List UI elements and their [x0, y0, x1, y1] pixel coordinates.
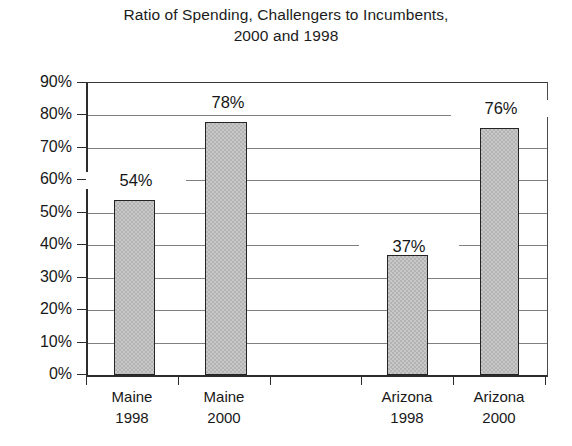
y-axis-label-0: 0% [6, 366, 72, 382]
y-axis-label-40: 40% [6, 236, 72, 252]
x-axis-tick-0 [86, 376, 87, 385]
value-label-maine-1998: 54% [86, 172, 186, 189]
value-label-arizona-2000: 76% [451, 100, 551, 117]
x-axis-tick-1 [178, 376, 179, 385]
bar-arizona-2000[interactable] [480, 128, 519, 375]
chart-title-line-2: 2000 and 1998 [0, 25, 572, 46]
y-axis-label-50: 50% [6, 204, 72, 220]
y-axis-tick-40 [77, 244, 86, 245]
gridline-40 [88, 245, 547, 246]
x-axis-tick-3 [361, 376, 362, 385]
bar-arizona-1998[interactable] [387, 255, 428, 375]
y-axis-label-10: 10% [6, 334, 72, 350]
x-axis-label-maine-1998-line-2: 1998 [86, 407, 178, 428]
x-axis-tick-5 [545, 376, 546, 385]
chart-title-line-1: Ratio of Spending, Challengers to Incumb… [0, 4, 572, 25]
x-axis-label-maine-2000-line-1: Maine [178, 386, 270, 407]
chart-title: Ratio of Spending, Challengers to Incumb… [0, 4, 572, 46]
x-axis-label-maine-2000: Maine 2000 [178, 386, 270, 428]
bar-maine-2000[interactable] [205, 122, 247, 375]
gridline-30 [88, 278, 547, 279]
y-axis-label-80: 80% [6, 106, 72, 122]
y-axis-label-90: 90% [6, 74, 72, 90]
y-axis-label-60: 60% [6, 171, 72, 187]
x-axis-label-arizona-2000-line-1: Arizona [453, 386, 545, 407]
y-axis-tick-50 [77, 212, 86, 213]
x-axis-label-maine-1998-line-1: Maine [86, 386, 178, 407]
bar-maine-1998[interactable] [114, 200, 155, 375]
x-axis-label-maine-1998: Maine 1998 [86, 386, 178, 428]
value-label-maine-2000: 78% [178, 94, 278, 111]
y-axis-tick-80 [77, 114, 86, 115]
x-axis-label-arizona-2000-line-2: 2000 [453, 407, 545, 428]
y-axis-label-20: 20% [6, 301, 72, 317]
y-axis-tick-60 [77, 179, 86, 180]
y-axis-tick-30 [77, 277, 86, 278]
gridline-50 [88, 213, 547, 214]
y-axis-label-70: 70% [6, 139, 72, 155]
y-axis-tick-0 [77, 374, 86, 375]
y-axis-tick-10 [77, 342, 86, 343]
value-label-arizona-1998: 37% [359, 238, 459, 255]
x-axis-label-arizona-1998-line-2: 1998 [361, 407, 453, 428]
plot-area [86, 82, 548, 377]
x-axis-tick-2 [270, 376, 271, 385]
x-axis-label-arizona-1998: Arizona 1998 [361, 386, 453, 428]
x-axis-label-arizona-1998-line-1: Arizona [361, 386, 453, 407]
x-axis-label-maine-2000-line-2: 2000 [178, 407, 270, 428]
x-axis-tick-4 [453, 376, 454, 385]
y-axis-tick-70 [77, 147, 86, 148]
gridline-70 [88, 148, 547, 149]
gridline-10 [88, 343, 547, 344]
y-axis-tick-20 [77, 309, 86, 310]
y-axis-label-30: 30% [6, 269, 72, 285]
gridline-20 [88, 310, 547, 311]
y-axis-tick-90 [77, 82, 86, 83]
x-axis-label-arizona-2000: Arizona 2000 [453, 386, 545, 428]
bar-chart: Ratio of Spending, Challengers to Incumb… [0, 0, 572, 446]
